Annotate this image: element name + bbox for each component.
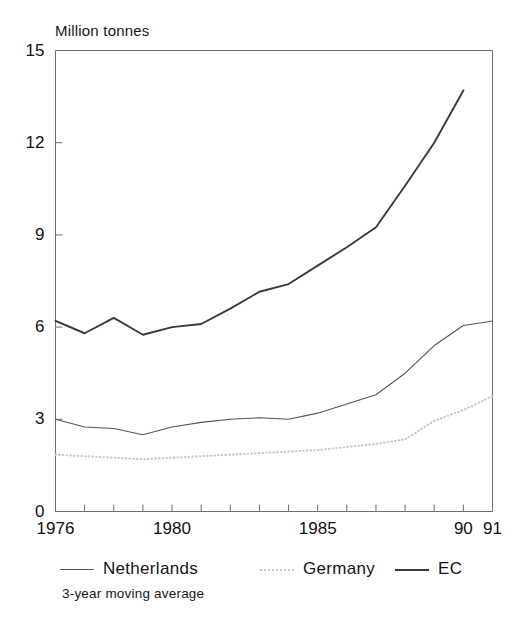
legend-item-germany[interactable]: Germany [260, 556, 375, 582]
legend-item-netherlands[interactable]: Netherlands [60, 556, 198, 582]
series-line-ec [56, 90, 464, 334]
x-tick-label-1985: 1985 [299, 519, 337, 539]
legend-item-ec[interactable]: EC [395, 556, 462, 582]
series-line-netherlands [56, 321, 493, 435]
legend-label: Germany [303, 559, 375, 579]
legend-swatch-ec-icon [395, 564, 429, 574]
series-line-germany [56, 396, 493, 459]
x-tick-label-1980: 1980 [153, 519, 191, 539]
y-tick-label-6: 6 [9, 317, 45, 337]
y-tick-label-12: 12 [9, 133, 45, 153]
legend-swatch-netherlands-icon [60, 564, 94, 574]
chart-legend: NetherlandsGermanyEC [60, 556, 490, 582]
data-series-layer [56, 90, 493, 459]
y-tick-label-15: 15 [9, 41, 45, 61]
axes-frame [56, 51, 493, 512]
plot-canvas [0, 0, 527, 626]
chart-figure: Million tonnes 03691215 1976198019859091… [0, 0, 527, 626]
legend-label: Netherlands [103, 559, 198, 579]
y-tick-label-9: 9 [9, 225, 45, 245]
chart-footnote: 3-year moving average [62, 586, 204, 601]
x-tick-label-1976: 1976 [37, 519, 75, 539]
axis-tick-marks [56, 143, 464, 512]
x-tick-label-90: 90 [454, 519, 473, 539]
x-tick-label-91: 91 [483, 519, 502, 539]
y-tick-label-3: 3 [9, 409, 45, 429]
legend-swatch-germany-icon [260, 564, 294, 574]
legend-label: EC [438, 559, 462, 579]
